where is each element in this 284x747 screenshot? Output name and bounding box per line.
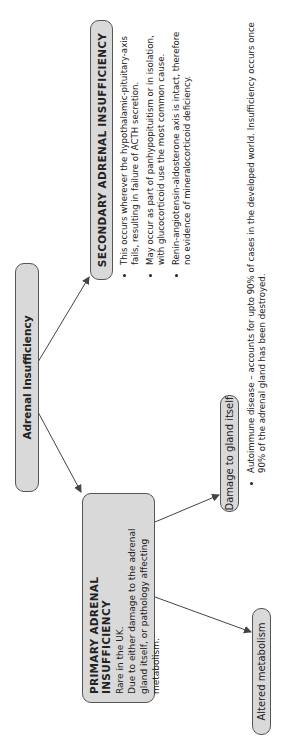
- altered-label: Altered metabolism: [256, 622, 267, 720]
- primary-title: PRIMARY ADRENAL INSUFFICIENCY: [88, 502, 112, 694]
- arrow-root-to-primary: [38, 412, 81, 492]
- damage-bullet: Autoimmune disease – accounts for upto 9…: [246, 15, 268, 473]
- secondary-node: SECONDARY ADRENAL INSUFFICIENCY: [90, 20, 113, 280]
- altered-node: Altered metabolism: [252, 608, 271, 735]
- secondary-title: SECONDARY ADRENAL INSUFFICIENCY: [96, 33, 108, 267]
- primary-node: PRIMARY ADRENAL INSUFFICIENCY Rare in th…: [82, 493, 155, 703]
- secondary-bullet: Renin-angiotensin-aldosterone axis is in…: [171, 20, 193, 265]
- secondary-bullets: This occurs wherever the hypothalamic-pi…: [119, 20, 197, 277]
- primary-line1: Rare in the UK.: [114, 626, 126, 694]
- secondary-bullet: This occurs wherever the hypothalamic-pi…: [119, 20, 141, 265]
- primary-line2: Due to either damage to the adrenal glan…: [126, 502, 162, 694]
- diagram-canvas: Adrenal Insufficiency SECONDARY ADRENAL …: [0, 0, 284, 747]
- arrow-primary-to-altered: [155, 597, 251, 632]
- arrow-root-to-secondary: [38, 277, 89, 362]
- damage-node: Damage to gland itself: [220, 395, 239, 512]
- secondary-bullet: May occur as part of panhypopituitism or…: [145, 20, 167, 265]
- arrow-primary-to-damage: [155, 495, 219, 522]
- root-label: Adrenal Insufficiency: [21, 315, 33, 439]
- damage-bullets: Autoimmune disease – accounts for upto 9…: [246, 15, 272, 485]
- root-node: Adrenal Insufficiency: [15, 263, 39, 492]
- damage-label: Damage to gland itself: [224, 396, 235, 510]
